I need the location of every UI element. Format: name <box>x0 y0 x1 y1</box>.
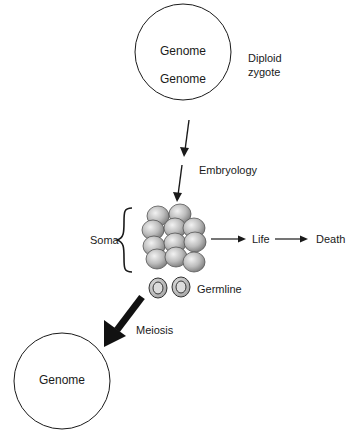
gamete-genome-label: Genome <box>39 374 85 387</box>
meiosis-label: Meiosis <box>136 324 173 337</box>
soma-label: Soma <box>90 234 119 247</box>
death-label: Death <box>316 233 345 246</box>
soma-cell-cluster-icon <box>142 204 206 272</box>
zygote-genome-bottom-label: Genome <box>160 73 206 86</box>
soma-brace-icon <box>117 208 132 272</box>
germline-label: Germline <box>197 283 242 296</box>
meiosis-arrow-icon <box>104 297 142 347</box>
life-arrow-icon <box>211 236 246 243</box>
embryology-arrow-icon <box>173 120 189 202</box>
zygote-genome-top-label: Genome <box>160 45 206 58</box>
germline-cells-icon <box>149 277 190 298</box>
death-arrow-icon <box>275 236 308 243</box>
embryology-label: Embryology <box>199 164 257 177</box>
life-label: Life <box>252 233 270 246</box>
zygote-label: zygote <box>248 66 280 79</box>
diploid-label: Diploid <box>248 52 282 65</box>
